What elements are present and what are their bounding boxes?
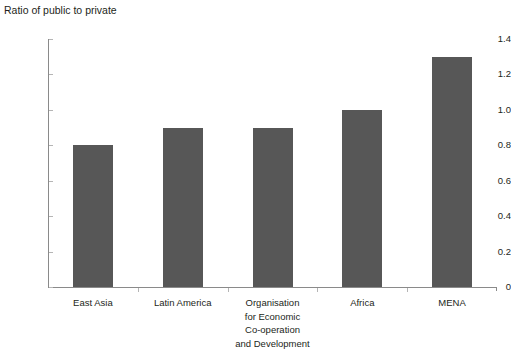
- bar-chart: Ratio of public to private 00.20.40.60.8…: [0, 0, 511, 361]
- x-axis-tick: [228, 288, 229, 292]
- bar: [342, 110, 382, 287]
- x-axis-category-label: Organisation for Economic Co-operation a…: [228, 296, 318, 350]
- x-axis-category-label: MENA: [407, 296, 497, 310]
- x-axis-category-label: Latin America: [138, 296, 228, 310]
- chart-title: Ratio of public to private: [4, 4, 117, 17]
- x-axis-category-label: Africa: [317, 296, 407, 310]
- x-axis-category-label: East Asia: [48, 296, 138, 310]
- x-axis-tick: [317, 288, 318, 292]
- x-axis-line: [48, 287, 497, 288]
- bar: [73, 145, 113, 287]
- bar: [253, 128, 293, 287]
- x-axis-tick: [138, 288, 139, 292]
- y-axis-tick: [49, 287, 53, 288]
- bar: [432, 57, 472, 287]
- plot-area: [48, 39, 497, 287]
- x-axis-tick: [407, 288, 408, 292]
- bar: [163, 128, 203, 287]
